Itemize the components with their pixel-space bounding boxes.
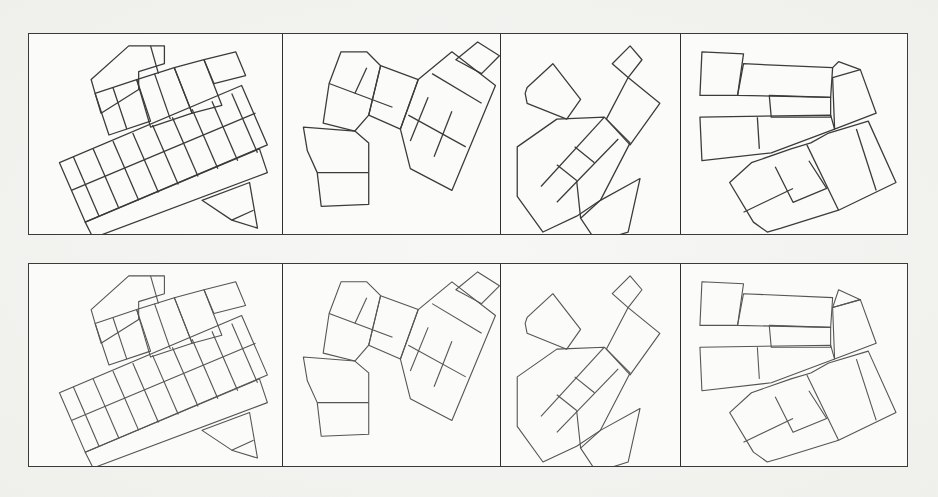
pattern-layout-d1 bbox=[681, 34, 909, 234]
pattern-layout-d2 bbox=[681, 264, 909, 466]
panel-d2 bbox=[681, 264, 909, 466]
pattern-layout-c1 bbox=[501, 34, 680, 234]
pattern-layout-b1 bbox=[283, 34, 500, 234]
panel-c2 bbox=[501, 264, 681, 466]
figure-row-bottom bbox=[28, 263, 908, 467]
panel-c1 bbox=[501, 34, 681, 234]
panel-a1 bbox=[29, 34, 283, 234]
pattern-layout-a2 bbox=[29, 264, 282, 466]
figure-row-top bbox=[28, 33, 908, 235]
pattern-layout-b2 bbox=[283, 264, 500, 466]
panel-a2 bbox=[29, 264, 283, 466]
panel-b2 bbox=[283, 264, 501, 466]
pattern-layout-a1 bbox=[29, 34, 282, 234]
panel-b1 bbox=[283, 34, 501, 234]
pattern-layout-c2 bbox=[501, 264, 680, 466]
panel-d1 bbox=[681, 34, 909, 234]
